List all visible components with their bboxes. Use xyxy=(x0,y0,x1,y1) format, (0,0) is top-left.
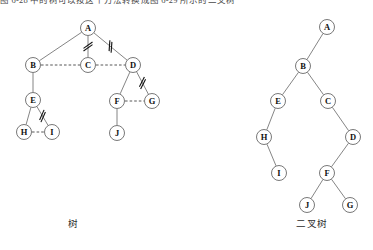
node-label-b: B xyxy=(30,60,36,70)
node-label-b: B xyxy=(300,61,306,71)
tree-node-c[interactable]: C xyxy=(81,58,96,73)
node-label-h: H xyxy=(21,127,28,137)
caption-general-tree: 树 xyxy=(68,216,79,230)
edge-c-d xyxy=(332,107,348,130)
edge-b-c xyxy=(308,72,324,94)
node-label-d: D xyxy=(350,132,356,142)
edge-h-i xyxy=(267,144,276,166)
edge-f-g xyxy=(332,179,346,198)
tree-node-h[interactable]: H xyxy=(257,130,272,145)
edge-a-b xyxy=(39,32,81,60)
tree-node-a[interactable]: A xyxy=(81,21,96,36)
node-label-g: G xyxy=(149,96,156,106)
node-label-e: E xyxy=(30,95,36,105)
tree-node-f[interactable]: F xyxy=(110,94,125,109)
tree-node-f[interactable]: F xyxy=(320,166,335,181)
node-label-a: A xyxy=(324,22,331,32)
tree-node-c[interactable]: C xyxy=(321,94,336,109)
tree-node-g[interactable]: G xyxy=(145,94,160,109)
tree-node-h[interactable]: H xyxy=(17,125,32,140)
tree-node-i[interactable]: I xyxy=(272,166,287,181)
tree-node-d[interactable]: D xyxy=(126,58,141,73)
edge-f-j xyxy=(311,180,323,199)
tree-node-a[interactable]: A xyxy=(320,20,335,35)
node-label-c: C xyxy=(85,60,91,70)
tree-node-j[interactable]: J xyxy=(110,126,125,141)
edge-a-d xyxy=(94,33,127,60)
node-label-h: H xyxy=(261,132,268,142)
node-label-e: E xyxy=(275,96,281,106)
edge-a-b xyxy=(307,34,323,60)
edge-b-e xyxy=(283,72,299,94)
node-label-f: F xyxy=(114,96,119,106)
figure-root: 图 6-28 中的树可以按这个方法转换成图 6-29 所示的二叉树 ABCDEF… xyxy=(0,0,373,250)
tree-node-j[interactable]: J xyxy=(300,198,315,213)
node-label-d: D xyxy=(130,60,136,70)
tree-node-d[interactable]: D xyxy=(346,130,361,145)
edge-e-h xyxy=(267,108,275,129)
edge-d-f xyxy=(332,143,349,166)
tree-node-e[interactable]: E xyxy=(271,94,286,109)
tree-node-g[interactable]: G xyxy=(343,198,358,213)
edge-d-f xyxy=(120,72,130,94)
tree-conversion-diagram: ABCDEFGHIJ ABECHDIFJG xyxy=(0,0,373,250)
node-label-a: A xyxy=(85,23,92,33)
tree-node-i[interactable]: I xyxy=(45,125,60,140)
node-label-g: G xyxy=(347,200,354,210)
tree-node-e[interactable]: E xyxy=(26,93,41,108)
edge-e-h xyxy=(26,108,31,125)
edge-e-i xyxy=(37,107,48,126)
binary-tree-group: ABECHDIFJG xyxy=(257,20,361,213)
node-label-f: F xyxy=(324,168,329,178)
caption-binary-tree: 二叉树 xyxy=(296,216,328,230)
edge-d-g xyxy=(137,72,149,94)
tree-node-b[interactable]: B xyxy=(296,59,311,74)
node-label-c: C xyxy=(325,96,331,106)
general-tree-group: ABCDEFGHIJ xyxy=(17,21,160,141)
tree-node-b[interactable]: B xyxy=(26,58,41,73)
